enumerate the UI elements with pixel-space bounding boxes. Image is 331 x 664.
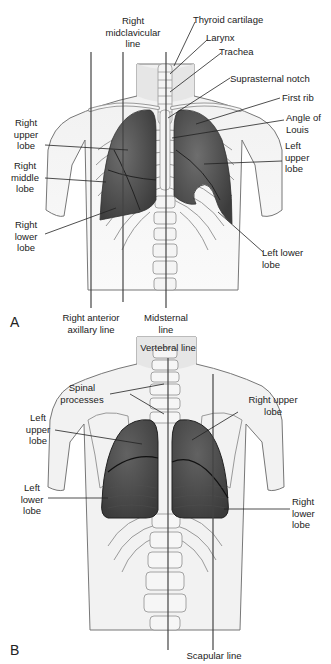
anterior-chest-diagram: Right midclavicular line Thyroid cartila… [0, 0, 331, 332]
label-text: lobe [14, 505, 50, 517]
label-text: line [100, 38, 166, 50]
label-text: Louis [286, 124, 321, 136]
label-text: upper [20, 424, 56, 436]
label-right-midclavicular-line: Right midclavicular line [100, 15, 166, 50]
label-scapular-line: Scapular line [176, 650, 252, 662]
label-text: Right [292, 496, 315, 508]
label-right-middle-lobe: Right middle lobe [6, 160, 44, 195]
posterior-chest-diagram: Vertebral line Spinal processes Right up… [0, 332, 331, 664]
label-text: lobe [240, 406, 306, 418]
label-trachea: Trachea [219, 46, 254, 58]
label-text: Right anterior [58, 312, 124, 324]
label-thyroid-cartilage: Thyroid cartilage [193, 14, 263, 26]
label-text: Right [100, 15, 166, 27]
label-text: Right [8, 117, 44, 129]
label-suprasternal-notch: Suprasternal notch [230, 73, 310, 85]
label-text: lobe [285, 163, 309, 175]
label-text: lobe [262, 259, 303, 271]
label-spinal-processes: Spinal processes [54, 382, 110, 405]
label-larynx: Larynx [206, 32, 235, 44]
label-text: upper [8, 129, 44, 141]
label-text: lobe [6, 183, 44, 195]
label-text: Right [6, 160, 44, 172]
panel-letter-b: B [10, 642, 19, 658]
label-text: processes [54, 394, 110, 406]
label-angle-of-louis: Angle of Louis [286, 112, 321, 135]
label-text: lower [292, 508, 315, 520]
label-text: Right upper [240, 394, 306, 406]
label-first-rib: First rib [282, 92, 314, 104]
label-right-lower-lobe: Right lower lobe [8, 219, 44, 254]
label-text: lobe [292, 519, 315, 531]
label-text: Right [8, 219, 44, 231]
label-text: Spinal [54, 382, 110, 394]
label-right-upper-lobe: Right upper lobe [8, 117, 44, 152]
panel-letter-a: A [10, 314, 19, 330]
label-right-lower-lobe-posterior: Right lower lobe [292, 496, 315, 531]
label-left-lower-lobe-posterior: Left lower lobe [14, 482, 50, 517]
label-text: lobe [8, 242, 44, 254]
label-text: Left lower [262, 247, 303, 259]
label-left-lower-lobe: Left lower lobe [262, 247, 303, 270]
label-text: Angle of [286, 112, 321, 124]
label-text: lower [14, 494, 50, 506]
label-text: lobe [20, 435, 56, 447]
label-left-upper-lobe: Left upper lobe [285, 140, 309, 175]
label-text: Left [14, 482, 50, 494]
label-text: middle [6, 172, 44, 184]
label-text: midclavicular [100, 27, 166, 39]
label-text: Left [285, 140, 309, 152]
label-text: lower [8, 231, 44, 243]
label-text: Left [20, 412, 56, 424]
anterior-chest-illustration [0, 0, 331, 332]
label-text: Midsternal [138, 312, 194, 324]
label-text: upper [285, 152, 309, 164]
label-right-upper-lobe-posterior: Right upper lobe [240, 394, 306, 417]
label-text: lobe [8, 140, 44, 152]
label-vertebral-line: Vertebral line [130, 342, 206, 354]
label-left-upper-lobe-posterior: Left upper lobe [20, 412, 56, 447]
